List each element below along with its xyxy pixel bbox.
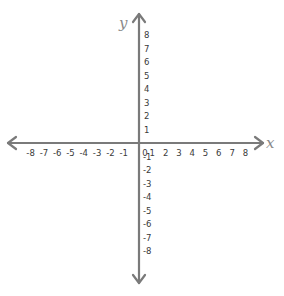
x-tick-label: -7 (40, 148, 48, 158)
y-tick-label: -8 (143, 246, 151, 256)
x-tick-label: -3 (93, 148, 101, 158)
x-tick-label: 7 (229, 148, 234, 158)
x-tick-label: -1 (119, 148, 127, 158)
x-tick-label: 8 (243, 148, 248, 158)
x-tick-label: 2 (163, 148, 168, 158)
x-tick-label: -5 (66, 148, 74, 158)
y-tick-label: -2 (143, 165, 151, 175)
y-tick-label: 6 (144, 57, 149, 67)
x-tick-label: -8 (26, 148, 34, 158)
x-tick-label: -4 (80, 148, 88, 158)
y-tick-label: 5 (144, 71, 149, 81)
x-tick-label: 4 (189, 148, 194, 158)
y-tick-label: -1 (143, 152, 151, 162)
x-tick-label: 3 (176, 148, 181, 158)
y-tick-label: 7 (144, 44, 149, 54)
x-tick-label: 5 (203, 148, 208, 158)
x-tick-label: -2 (106, 148, 114, 158)
y-tick-label: 1 (144, 125, 149, 135)
y-tick-label: -3 (143, 179, 151, 189)
y-tick-label: 8 (144, 30, 149, 40)
y-tick-label: -4 (143, 192, 151, 202)
y-tick-label: 3 (144, 98, 149, 108)
coordinate-plane: x y -8-7-6-5-4-3-2-1012345678 87654321-1… (0, 0, 284, 296)
y-axis-label: y (118, 14, 128, 32)
y-tick-label: -5 (143, 206, 151, 216)
x-axis-label: x (266, 134, 275, 152)
x-tick-label: -6 (53, 148, 61, 158)
y-tick-label: -7 (143, 233, 151, 243)
y-tick-label: -6 (143, 219, 151, 229)
x-tick-label: 6 (216, 148, 221, 158)
x-tick-labels: -8-7-6-5-4-3-2-1012345678 (26, 148, 248, 158)
y-tick-label: 4 (144, 84, 149, 94)
y-tick-label: 2 (144, 111, 149, 121)
